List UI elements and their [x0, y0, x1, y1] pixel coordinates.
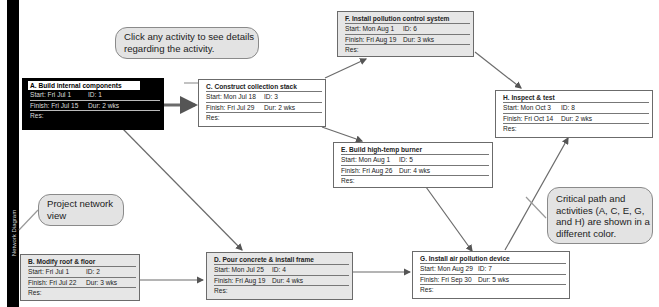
link-a-d — [122, 128, 242, 250]
activity-title: E. Build high-temp burner — [341, 145, 489, 155]
activity-node-e[interactable]: E. Build high-temp burner Start: Mon Aug… — [333, 142, 493, 188]
activity-title: H. Inspect & test — [503, 93, 649, 103]
activity-node-c[interactable]: C. Construct collection stack Start: Mon… — [198, 79, 326, 127]
callout-text: Project network view — [47, 198, 113, 221]
callout-text: Critical path and activities (A, C, E, G… — [556, 193, 650, 239]
activity-title: G. Install air pollution device — [420, 254, 566, 264]
callout-click-hint: Click any activity to see details regard… — [115, 27, 259, 59]
activity-title: B. Modify roof & floor — [28, 257, 136, 267]
activity-node-d[interactable]: D. Pour concrete & install frame Start: … — [206, 252, 353, 300]
activity-node-a[interactable]: A. Build internal components Start: Fri … — [22, 78, 164, 130]
activity-node-b[interactable]: B. Modify roof & floor Start: Fri Jul 1I… — [20, 254, 140, 301]
link-c-f — [325, 59, 366, 78]
activity-title: D. Pour concrete & install frame — [214, 255, 349, 265]
activity-node-f[interactable]: F. Install pollution control system Star… — [337, 11, 474, 57]
link-c-e — [322, 127, 362, 141]
link-e-g — [426, 187, 472, 251]
activity-title: A. Build internal components — [28, 81, 140, 90]
activity-title: F. Install pollution control system — [345, 14, 470, 24]
callout-critical-path: Critical path and activities (A, C, E, G… — [547, 187, 653, 244]
callout-pointer-project — [19, 210, 38, 230]
activity-node-h[interactable]: H. Inspect & test Start: Mon Oct 3ID: 8 … — [495, 90, 653, 138]
link-f-h — [475, 52, 521, 88]
activity-title: C. Construct collection stack — [206, 82, 322, 92]
activity-node-g[interactable]: G. Install air pollution device Start: M… — [412, 251, 570, 299]
callout-project-view: Project network view — [38, 194, 124, 226]
callout-text: Click any activity to see details regard… — [124, 31, 254, 54]
